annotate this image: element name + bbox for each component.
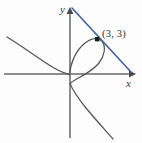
- tangent-point-marker: [95, 37, 99, 41]
- tangent-line: [72, 8, 131, 72]
- folium-loop: [70, 39, 105, 84]
- y-axis-label: y: [60, 4, 65, 15]
- math-figure-folium-with-tangent: y x (3, 3): [0, 0, 142, 143]
- graph-canvas: [0, 0, 142, 143]
- tangent-line-segment: [72, 8, 131, 72]
- folium-branch-lower-right: [70, 84, 113, 139]
- folium-curve: [7, 37, 113, 139]
- point-coordinate-label: (3, 3): [102, 29, 126, 40]
- x-axis-label: x: [126, 78, 131, 89]
- folium-branch-upper-left: [7, 37, 69, 74]
